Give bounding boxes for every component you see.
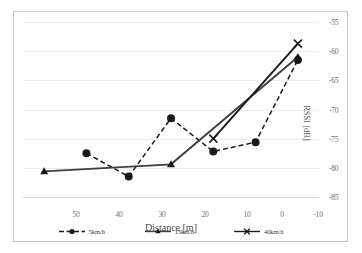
ytick-label-1: -60 (329, 47, 338, 56)
xtick-label-5: 0 (280, 210, 284, 219)
chart-container: -55 -60 -65 -70 -75 -80 -85 50 40 30 20 … (13, 11, 348, 242)
data-point-circle (167, 114, 175, 122)
legend-item-40kmh[interactable]: 40km/h (234, 227, 283, 236)
xtick-label-1: 40 (115, 210, 122, 219)
chart-series-layer (23, 22, 319, 197)
series-line (213, 44, 298, 139)
ytick-label-5: -80 (329, 164, 338, 173)
chart-legend: 5km/h 15km/h 40km/h (23, 227, 319, 236)
legend-label-5kmh: 5km/h (89, 228, 105, 235)
data-point-circle (82, 149, 90, 157)
legend-swatch-circle-dashed (59, 227, 85, 236)
legend-item-15kmh[interactable]: 15km/h (145, 227, 194, 236)
series-15kmh (40, 53, 302, 174)
data-point-circle (125, 173, 133, 181)
ytick-label-6: -85 (329, 193, 338, 202)
legend-item-5kmh[interactable]: 5km/h (59, 227, 105, 236)
y-axis-label: RSSI [dB] (302, 105, 312, 141)
data-point-triangle (294, 53, 302, 60)
legend-swatch-cross-solid (234, 227, 260, 236)
xtick-label-3: 20 (201, 210, 208, 219)
data-point-circle (252, 138, 260, 146)
series-40kmh (209, 40, 302, 143)
ytick-label-3: -70 (329, 106, 338, 115)
data-point-circle (209, 148, 217, 156)
series-line (44, 57, 298, 171)
x-axis-line (23, 197, 319, 198)
xtick-label-0: 50 (72, 210, 79, 219)
data-point-cross (294, 40, 302, 48)
legend-label-40kmh: 40km/h (264, 228, 283, 235)
series-line (86, 60, 297, 177)
legend-label-15kmh: 15km/h (175, 228, 194, 235)
legend-swatch-triangle-solid (145, 227, 171, 236)
ytick-label-0: -55 (329, 18, 338, 27)
data-point-cross (209, 135, 217, 143)
plot-area: -55 -60 -65 -70 -75 -80 -85 50 40 30 20 … (23, 22, 319, 197)
xtick-label-2: 30 (158, 210, 165, 219)
series-5kmh (82, 56, 301, 181)
xtick-label-4: 10 (243, 210, 250, 219)
ytick-label-4: -75 (329, 135, 338, 144)
ytick-label-2: -65 (329, 76, 338, 85)
xtick-label-6: -10 (313, 210, 322, 219)
